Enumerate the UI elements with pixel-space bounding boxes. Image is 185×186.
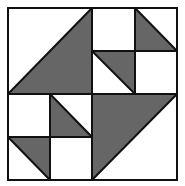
quilt-block-diagram — [0, 0, 185, 186]
